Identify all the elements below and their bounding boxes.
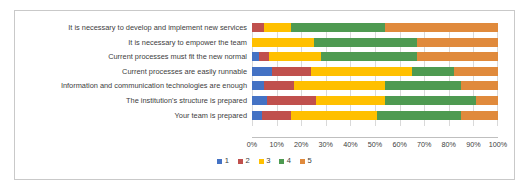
category-label: The institution's structure is prepared — [15, 96, 247, 105]
bar-segment[interactable] — [291, 23, 384, 32]
bar-segment[interactable] — [316, 96, 385, 105]
bar-row — [252, 52, 498, 61]
x-tick-label: 20% — [294, 139, 308, 151]
legend-label: 1 — [225, 157, 229, 165]
legend-label: 4 — [287, 157, 291, 165]
x-tick-label: 100% — [489, 139, 507, 151]
legend-swatch-icon — [259, 159, 264, 164]
category-label: Current processes are easily runnable — [15, 67, 247, 76]
legend-label: 2 — [245, 157, 249, 165]
category-label: It is necessary to develop and implement… — [15, 23, 247, 32]
bar-segment[interactable] — [252, 23, 264, 32]
category-label: It is necessary to empower the team — [15, 38, 247, 47]
legend-item-5[interactable]: 5 — [300, 157, 312, 165]
category-label: Information and communication technologi… — [15, 81, 247, 90]
bar-segment[interactable] — [321, 52, 417, 61]
x-tick-label: 60% — [392, 139, 406, 151]
bar-segment[interactable] — [417, 52, 498, 61]
x-axis-line — [252, 137, 498, 138]
category-label: Current processes must fit the new norma… — [15, 52, 247, 61]
bar-row — [252, 23, 498, 32]
legend-swatch-icon — [217, 159, 222, 164]
x-axis-ticks: 0%10%20%30%40%50%60%70%80%90%100% — [252, 139, 498, 151]
x-tick-label: 0% — [247, 139, 257, 151]
x-tick-label: 50% — [368, 139, 382, 151]
x-tick-label: 10% — [269, 139, 283, 151]
legend-item-4[interactable]: 4 — [279, 157, 291, 165]
x-tick-label: 30% — [319, 139, 333, 151]
bar-segment[interactable] — [385, 81, 461, 90]
bar-segment[interactable] — [264, 23, 291, 32]
x-tick-label: 80% — [442, 139, 456, 151]
legend-swatch-icon — [279, 159, 284, 164]
bar-rows — [252, 23, 498, 126]
bar-segment[interactable] — [314, 38, 417, 47]
bar-row — [252, 111, 498, 120]
plot-area — [252, 23, 498, 138]
bar-segment[interactable] — [385, 96, 476, 105]
bar-segment[interactable] — [252, 96, 267, 105]
bar-segment[interactable] — [252, 67, 272, 76]
bar-segment[interactable] — [252, 111, 262, 120]
chart-legend: 12345 — [15, 157, 514, 165]
bar-segment[interactable] — [272, 67, 311, 76]
x-tick-label: 70% — [417, 139, 431, 151]
legend-item-3[interactable]: 3 — [259, 157, 271, 165]
legend-label: 3 — [266, 157, 270, 165]
bar-row — [252, 81, 498, 90]
bar-segment[interactable] — [252, 81, 264, 90]
bar-segment[interactable] — [385, 23, 498, 32]
legend-swatch-icon — [238, 159, 243, 164]
bar-segment[interactable] — [269, 52, 321, 61]
bar-segment[interactable] — [412, 67, 454, 76]
bar-segment[interactable] — [259, 52, 269, 61]
bar-row — [252, 38, 498, 47]
bar-segment[interactable] — [476, 96, 498, 105]
bar-segment[interactable] — [417, 38, 498, 47]
bar-segment[interactable] — [461, 81, 498, 90]
x-tick-label: 90% — [466, 139, 480, 151]
bar-segment[interactable] — [267, 96, 316, 105]
legend-item-2[interactable]: 2 — [238, 157, 250, 165]
bar-segment[interactable] — [294, 81, 385, 90]
x-tick-label: 40% — [343, 139, 357, 151]
bar-segment[interactable] — [252, 52, 259, 61]
bar-segment[interactable] — [291, 111, 377, 120]
bar-segment[interactable] — [454, 67, 498, 76]
category-label: Your team is prepared — [15, 111, 247, 120]
legend-label: 5 — [308, 157, 312, 165]
legend-swatch-icon — [300, 159, 305, 164]
bar-segment[interactable] — [377, 111, 461, 120]
chart-container: It is necessary to develop and implement… — [14, 10, 515, 180]
bar-row — [252, 96, 498, 105]
bar-segment[interactable] — [262, 111, 292, 120]
bar-segment[interactable] — [461, 111, 498, 120]
bar-row — [252, 67, 498, 76]
bar-segment[interactable] — [264, 81, 294, 90]
category-axis-labels: It is necessary to develop and implement… — [15, 23, 247, 126]
bar-segment[interactable] — [252, 38, 314, 47]
legend-item-1[interactable]: 1 — [217, 157, 229, 165]
bar-segment[interactable] — [311, 67, 412, 76]
